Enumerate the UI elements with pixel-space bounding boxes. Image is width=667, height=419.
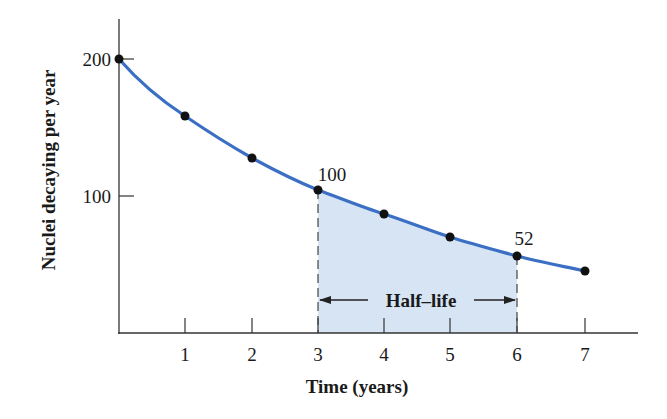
x-tick-label-1: 1 [180, 344, 190, 365]
y-tick-label-100: 100 [83, 186, 112, 207]
data-point [446, 233, 455, 242]
x-tick-label-7: 7 [580, 344, 590, 365]
x-tick-label-6: 6 [512, 344, 522, 365]
data-point [248, 154, 257, 163]
data-point [314, 186, 323, 195]
data-point [380, 210, 389, 219]
half-life-region [318, 190, 517, 333]
x-tick-label-4: 4 [379, 344, 389, 365]
x-tick-label-3: 3 [313, 344, 323, 365]
decay-chart: 200 100 1 2 3 4 5 6 7 Half–life 100 52 T [0, 0, 667, 419]
point-label-52: 52 [515, 228, 534, 249]
x-axis-title: Time (years) [306, 376, 409, 398]
x-tick-label-2: 2 [247, 344, 257, 365]
point-label-100: 100 [318, 164, 347, 185]
y-axis-title: Nuclei decaying per year [38, 69, 59, 270]
data-point [115, 55, 124, 64]
data-point [581, 267, 590, 276]
x-tick-label-5: 5 [445, 344, 455, 365]
y-tick-label-200: 200 [83, 49, 112, 70]
half-life-label: Half–life [386, 290, 457, 311]
data-point [181, 112, 190, 121]
data-point [513, 252, 522, 261]
